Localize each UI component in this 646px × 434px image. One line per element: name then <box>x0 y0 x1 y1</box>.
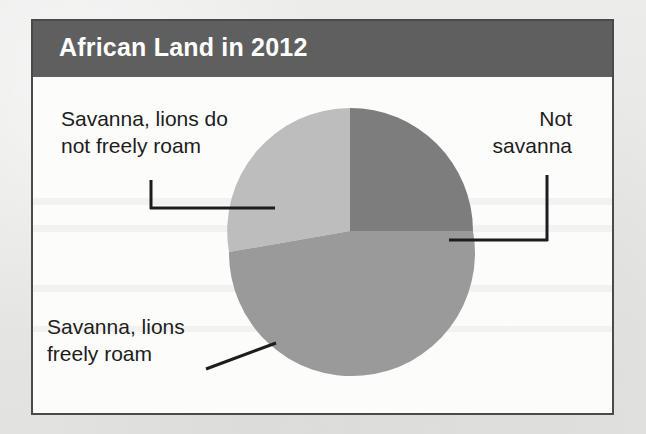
figure-title: African Land in 2012 <box>59 33 308 62</box>
figure-header: African Land in 2012 <box>33 21 612 77</box>
pie-slice-not-savanna <box>350 108 473 231</box>
pie-label-savanna-freely-roam: Savanna, lions freely roam <box>47 313 185 367</box>
pie-label-not-savanna: Not savanna <box>493 105 572 159</box>
leader-line-savanna-freely-roam <box>206 343 276 369</box>
pie-chart-area: Savanna, lions do not freely roam Not sa… <box>33 77 612 413</box>
pie-slice-savanna-not-freely-roam <box>227 108 350 252</box>
pie-slice-savanna-freely-roam <box>229 231 475 376</box>
figure-frame: African Land in 2012 <box>31 19 614 415</box>
pie-label-savanna-not-freely-roam: Savanna, lions do not freely roam <box>61 105 228 159</box>
